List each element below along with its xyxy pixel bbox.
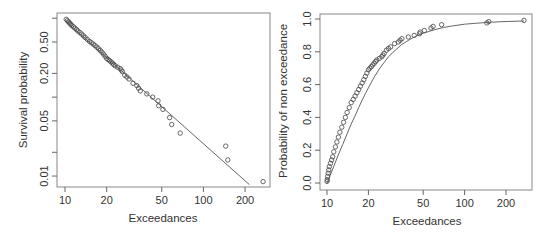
plot-frame — [320, 14, 532, 190]
figure: 102050100200 0.010.050.200.50 Exceedance… — [0, 0, 547, 233]
data-point — [336, 135, 340, 139]
data-point — [340, 125, 344, 129]
data-point — [347, 105, 351, 109]
x-tick-label: 100 — [194, 194, 212, 206]
y-tick-label: 0.05 — [38, 110, 50, 131]
data-point — [178, 131, 182, 135]
y-axis: 0.010.050.200.50 — [38, 18, 57, 187]
non-exceedance-plot: 102050100200 0.00.20.40.60.81.0 Exceedan… — [277, 11, 532, 227]
x-tick-label: 10 — [59, 194, 71, 206]
y-axis-label: Probability of non exceedance — [277, 24, 289, 178]
data-point — [333, 145, 337, 149]
y-axis: 0.00.20.40.60.81.0 — [301, 11, 320, 190]
y-tick-label: 0.8 — [301, 44, 313, 59]
data-point — [439, 23, 443, 27]
x-axis-label: Exceedances — [392, 215, 461, 227]
x-tick-label: 100 — [455, 197, 473, 209]
x-tick-label: 50 — [156, 194, 168, 206]
fitted-line — [65, 21, 249, 185]
y-axis-label: Survival probability — [17, 51, 29, 148]
data-point — [332, 150, 336, 154]
data-point — [522, 18, 526, 22]
x-axis: 102050100200 — [59, 187, 254, 206]
x-axis-label: Exceedances — [128, 212, 197, 224]
data-point — [341, 120, 345, 124]
data-points — [325, 18, 526, 183]
y-tick-label: 0.4 — [301, 110, 313, 125]
y-tick-label: 0.0 — [301, 175, 313, 190]
data-point — [170, 122, 174, 126]
data-point — [343, 115, 347, 119]
data-point — [345, 110, 349, 114]
y-tick-label: 1.0 — [301, 11, 313, 26]
x-tick-label: 20 — [101, 194, 113, 206]
fitted-line — [327, 21, 524, 183]
data-point — [167, 115, 171, 119]
data-point — [335, 140, 339, 144]
data-point — [406, 35, 410, 39]
data-point — [224, 144, 228, 148]
survival-plot: 102050100200 0.010.050.200.50 Exceedance… — [17, 13, 270, 224]
x-tick-label: 20 — [362, 197, 374, 209]
x-tick-label: 200 — [497, 197, 515, 209]
data-point — [226, 158, 230, 162]
data-point — [261, 179, 265, 183]
x-tick-label: 10 — [321, 197, 333, 209]
x-tick-label: 50 — [417, 197, 429, 209]
x-tick-label: 200 — [236, 194, 254, 206]
y-tick-label: 0.01 — [38, 165, 50, 186]
y-tick-label: 0.2 — [301, 143, 313, 158]
y-tick-label: 0.6 — [301, 77, 313, 92]
data-points — [64, 17, 265, 185]
x-axis: 102050100200 — [321, 190, 515, 209]
data-point — [338, 130, 342, 134]
y-tick-label: 0.50 — [38, 31, 50, 52]
y-tick-label: 0.20 — [38, 63, 50, 84]
